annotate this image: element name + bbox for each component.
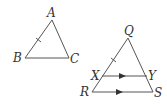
tick-mark-qx bbox=[111, 58, 116, 62]
triangle-abc: A B C bbox=[12, 6, 79, 66]
triangle-abc-outline bbox=[25, 20, 69, 58]
vertex-label-r: R bbox=[79, 85, 89, 99]
vertex-label-s: S bbox=[154, 86, 162, 100]
triangle-qrs-outline bbox=[92, 38, 153, 92]
vertex-label-x: X bbox=[90, 69, 100, 83]
vertex-label-y: Y bbox=[148, 69, 157, 83]
parallel-arrow-rs-icon bbox=[116, 89, 123, 95]
vertex-label-q: Q bbox=[124, 24, 134, 38]
triangle-qrs: Q X Y R S bbox=[79, 24, 162, 100]
parallel-arrow-xy-icon bbox=[119, 73, 126, 79]
vertex-label-c: C bbox=[70, 52, 79, 66]
vertex-label-a: A bbox=[46, 6, 56, 20]
geometry-diagram: A B C Q X Y R S bbox=[0, 0, 167, 105]
vertex-label-b: B bbox=[12, 51, 22, 65]
